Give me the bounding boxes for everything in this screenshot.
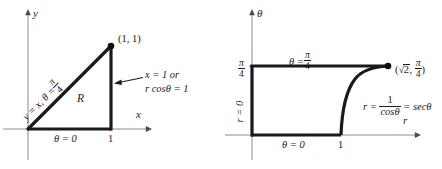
axes-left (3, 9, 152, 160)
corner-point-fraction: π4 (415, 58, 422, 79)
corner-point-paren-close: ) (422, 64, 426, 75)
curve-label-r-sec-theta: r = 1cosθ = secθ (363, 95, 431, 118)
corner-point-label: (√2, π4) (395, 58, 425, 79)
top-edge-fraction: π4 (304, 50, 311, 71)
curve-label-rhs: = secθ (403, 101, 431, 112)
edge-label-theta-0-right: θ = 0 (282, 140, 305, 151)
axes-right (225, 9, 421, 160)
curve-label-fraction-numerator: 1 (379, 95, 400, 106)
callout-label-rcos: r cosθ = 1 (145, 84, 188, 95)
curve-label-fraction: 1cosθ (379, 95, 400, 118)
figure-page: y x (1, 1) R 1 θ = 0 y = x, θ =π4 x = 1 … (0, 0, 442, 169)
axis-label-y: y (33, 8, 38, 19)
theta-tick-fraction-numerator: π (238, 58, 245, 68)
corner-point-sqrt: √2 (399, 64, 410, 76)
x-tick-label-1: 1 (108, 134, 113, 145)
vertex-label-1-1: (1, 1) (118, 34, 141, 45)
curve-label-lhs: r = (363, 101, 377, 112)
callout-line-2: r cosθ = 1 (145, 83, 188, 94)
corner-point-fraction-denominator: 4 (415, 68, 422, 79)
axis-label-theta: θ (257, 8, 262, 19)
top-edge-label-lhs: θ = (289, 56, 304, 67)
top-edge-fraction-denominator: 4 (304, 60, 311, 71)
region-label-R: R (77, 93, 84, 105)
edge-label-theta-0-right-text: θ = 0 (282, 139, 305, 150)
edge-label-r-0-text: r = 0 (234, 101, 245, 123)
corner-point-fraction-numerator: π (415, 58, 422, 68)
r-tick-label-1: 1 (338, 140, 343, 151)
edge-label-r-0: r = 0 (235, 101, 246, 123)
figure-right-canvas (221, 0, 442, 169)
figure-xy-plane: y x (1, 1) R 1 θ = 0 y = x, θ =π4 x = 1 … (0, 0, 221, 169)
corner-point-separator: , (410, 64, 413, 75)
top-edge-fraction-numerator: π (304, 50, 311, 60)
edge-label-theta-0-left-text: θ = 0 (54, 133, 77, 144)
curve-label-fraction-denominator: cosθ (379, 106, 400, 118)
theta-tick-fraction-denominator: 4 (238, 68, 245, 79)
vertex-point-1-1 (108, 43, 115, 50)
edge-label-theta-pi-over-4: θ =π4 (289, 50, 311, 71)
edge-label-theta-0-left: θ = 0 (54, 134, 77, 145)
corner-point-sqrt2-pi4 (385, 63, 392, 70)
figure-rtheta-plane: θ r π4 1 θ =π4 θ = 0 r = 0 (√2, π4) r = … (221, 0, 442, 169)
theta-tick-fraction: π4 (238, 58, 245, 79)
axis-label-x: x (136, 109, 141, 120)
callout-label-x-equals-1: x = 1 or (145, 70, 179, 81)
callout-line-1: x = 1 or (145, 69, 179, 80)
callout-arrow-left (114, 78, 143, 86)
theta-tick-label-pi-over-4: π4 (238, 58, 245, 79)
